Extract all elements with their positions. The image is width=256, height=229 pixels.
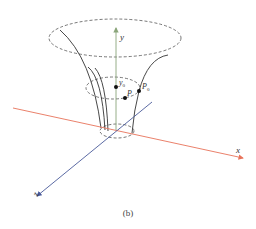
z-axis-label: z (30, 190, 41, 198)
point-P-label: P (126, 89, 132, 98)
x-axis-label: x (235, 145, 240, 155)
figure-caption: (b) (123, 208, 134, 218)
point-y0 (114, 85, 118, 89)
middle-section-ellipse (86, 77, 140, 99)
point-P0 (137, 89, 141, 93)
funnel-curve-left-outer (60, 30, 101, 128)
point-y0-label: y0 (118, 78, 126, 88)
point-P0-label: P0 (141, 82, 150, 92)
x-axis (13, 108, 243, 158)
z-axis (37, 102, 152, 196)
top-section-ellipse (49, 19, 181, 57)
funnel-surface-diagram: y x z y0 P P0 (b) (0, 0, 256, 229)
funnel-curve-right (132, 55, 168, 133)
y-axis-label: y (119, 32, 124, 42)
